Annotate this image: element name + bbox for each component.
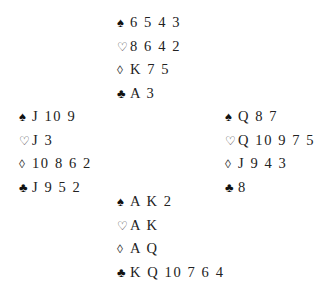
west-clubs: ♣J 9 5 2 [19, 176, 92, 200]
west-diamonds: ◊10 8 6 2 [19, 152, 92, 176]
north-hearts-cards: 8 6 4 2 [130, 38, 181, 54]
west-hand: ♠J 10 9 ♡J 3 ◊10 8 6 2 ♣J 9 5 2 [19, 105, 92, 199]
heart-icon: ♡ [117, 215, 130, 239]
west-spades: ♠J 10 9 [19, 105, 92, 129]
diamond-icon: ◊ [225, 153, 238, 177]
east-hearts-cards: Q 10 9 7 5 [238, 132, 315, 148]
south-spades-cards: A K 2 [130, 193, 173, 209]
south-diamonds: ◊A Q [117, 237, 225, 261]
south-hearts-cards: A K [130, 217, 159, 233]
north-hearts: ♡8 6 4 2 [117, 35, 181, 59]
diamond-icon: ◊ [117, 59, 130, 83]
diamond-icon: ◊ [19, 153, 32, 177]
spade-icon: ♠ [117, 11, 130, 35]
east-hand: ♠Q 8 7 ♡Q 10 9 7 5 ◊J 9 4 3 ♣8 [225, 105, 315, 199]
north-spades: ♠6 5 4 3 [117, 11, 181, 35]
club-icon: ♣ [225, 176, 238, 200]
north-diamonds: ◊K 7 5 [117, 58, 181, 82]
east-spades: ♠Q 8 7 [225, 105, 315, 129]
club-icon: ♣ [117, 82, 130, 106]
heart-icon: ♡ [19, 130, 32, 154]
spade-icon: ♠ [19, 105, 32, 129]
south-spades: ♠A K 2 [117, 190, 225, 214]
south-clubs: ♣K Q 10 7 6 4 [117, 261, 225, 285]
east-spades-cards: Q 8 7 [238, 108, 278, 124]
north-diamonds-cards: K 7 5 [130, 61, 170, 77]
west-diamonds-cards: 10 8 6 2 [32, 155, 92, 171]
west-clubs-cards: J 9 5 2 [32, 179, 81, 195]
north-clubs: ♣A 3 [117, 82, 181, 106]
east-diamonds-cards: J 9 4 3 [238, 155, 287, 171]
west-spades-cards: J 10 9 [32, 108, 76, 124]
east-clubs-cards: 8 [238, 179, 247, 195]
spade-icon: ♠ [225, 105, 238, 129]
heart-icon: ♡ [117, 36, 130, 60]
south-hearts: ♡A K [117, 214, 225, 238]
north-hand: ♠6 5 4 3 ♡8 6 4 2 ◊K 7 5 ♣A 3 [117, 11, 181, 105]
heart-icon: ♡ [225, 130, 238, 154]
west-hearts: ♡J 3 [19, 129, 92, 153]
north-spades-cards: 6 5 4 3 [130, 14, 181, 30]
east-clubs: ♣8 [225, 176, 315, 200]
south-diamonds-cards: A Q [130, 240, 159, 256]
east-hearts: ♡Q 10 9 7 5 [225, 129, 315, 153]
west-hearts-cards: J 3 [32, 132, 53, 148]
south-clubs-cards: K Q 10 7 6 4 [130, 264, 225, 280]
club-icon: ♣ [19, 176, 32, 200]
club-icon: ♣ [117, 261, 130, 285]
north-clubs-cards: A 3 [130, 85, 155, 101]
diamond-icon: ◊ [117, 238, 130, 262]
south-hand: ♠A K 2 ♡A K ◊A Q ♣K Q 10 7 6 4 [117, 190, 225, 284]
east-diamonds: ◊J 9 4 3 [225, 152, 315, 176]
spade-icon: ♠ [117, 190, 130, 214]
